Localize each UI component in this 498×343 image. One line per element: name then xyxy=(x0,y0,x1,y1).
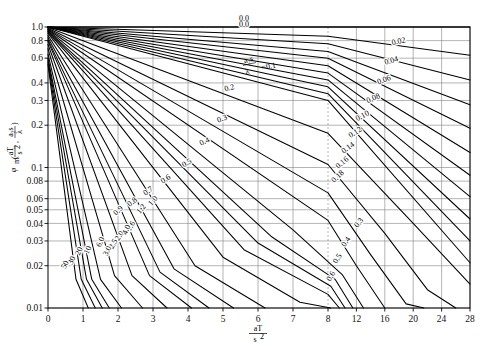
chart-container: 0123456781216202428 1.00.80.60.40.30.20.… xyxy=(0,0,498,343)
x-axis-title-denominator: s xyxy=(253,335,256,343)
x-tick-label: 8 xyxy=(326,314,331,324)
y-tick-label: 1.0 xyxy=(31,22,43,32)
x-tick-label: 16 xyxy=(380,314,390,324)
y-tick-label: 0.03 xyxy=(26,236,43,246)
y-axis-title-phi: φ xyxy=(9,167,18,172)
x-axis-title-denominator-exponent: 2 xyxy=(260,332,264,341)
x-tick-label: 24 xyxy=(437,314,447,324)
y-axis-title-close-paren: ) xyxy=(10,122,19,125)
y-tick-label: 0.02 xyxy=(26,261,43,271)
annotation-zero-label: 0.0 xyxy=(239,14,249,23)
y-axis-title-comma: , xyxy=(11,141,20,143)
x-tick-label: 2 xyxy=(116,314,121,324)
y-tick-label: 0.05 xyxy=(26,205,43,215)
y-tick-label: 0.3 xyxy=(31,96,43,106)
y-axis-title-arg1-exponent: 2 xyxy=(13,145,22,149)
y-tick-label: 0.8 xyxy=(31,36,43,46)
y-tick-label: 0.01 xyxy=(26,303,43,313)
transient-conduction-plot: 0123456781216202428 1.00.80.60.40.30.20.… xyxy=(0,0,498,343)
x-tick-label: 20 xyxy=(408,314,418,324)
y-tick-label: 0.2 xyxy=(31,120,43,130)
x-tick-label: 7 xyxy=(291,314,296,324)
y-axis-title-open-paren: ( xyxy=(10,156,19,159)
x-tick-label: 12 xyxy=(352,314,362,324)
chart-annotations: 0.0 xyxy=(239,14,249,23)
x-tick-label: 5 xyxy=(221,314,226,324)
y-tick-label: 0.08 xyxy=(26,176,43,186)
y-tick-label: 0.06 xyxy=(26,194,43,204)
y-tick-label: 0.6 xyxy=(31,53,43,63)
y-tick-label: 0.4 xyxy=(31,78,43,88)
y-axis-title-arg2-denominator: λ xyxy=(15,130,24,134)
x-tick-label: 1 xyxy=(81,314,86,324)
y-axis-title-arg1-denominator: s xyxy=(15,151,24,154)
x-tick-label: 28 xyxy=(465,314,475,324)
y-tick-label: 0.04 xyxy=(26,219,43,229)
x-tick-label: 3 xyxy=(151,314,156,324)
x-tick-label: 4 xyxy=(186,314,191,324)
y-tick-label: 0.1 xyxy=(31,163,43,173)
x-tick-label: 0 xyxy=(46,314,51,324)
x-tick-label: 6 xyxy=(256,314,261,324)
